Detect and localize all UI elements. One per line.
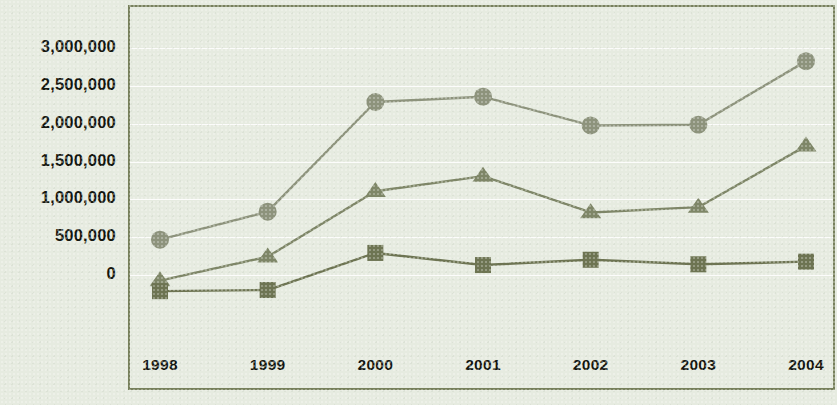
- y-axis-tick-label: 3,000,000: [0, 38, 116, 55]
- y-axis-tick-label: 0: [0, 265, 116, 282]
- data-point-marker: [473, 167, 494, 182]
- chart-figure: 3,000,0002,500,0002,000,0001,500,0001,00…: [0, 0, 837, 405]
- data-point-marker: [797, 52, 815, 70]
- x-axis-tick-label: 2004: [788, 357, 824, 373]
- y-axis-tick-label: 2,000,000: [0, 113, 116, 130]
- data-point-marker: [152, 283, 168, 299]
- x-axis-tick-label: 2003: [680, 357, 716, 373]
- data-point-marker: [690, 256, 706, 272]
- x-axis-tick-label: 1999: [250, 357, 286, 373]
- data-point-marker: [796, 137, 817, 152]
- data-point-marker: [688, 198, 709, 213]
- data-point-marker: [798, 254, 814, 270]
- x-axis-tick-label: 2000: [357, 357, 393, 373]
- data-point-marker: [151, 231, 169, 249]
- data-point-marker: [259, 203, 277, 221]
- data-point-marker: [689, 116, 707, 134]
- y-axis-tick-label: 1,000,000: [0, 189, 116, 206]
- data-point-marker: [474, 88, 492, 106]
- data-point-marker: [366, 93, 384, 111]
- x-axis-tick-label: 2001: [465, 357, 501, 373]
- y-axis: 3,000,0002,500,0002,000,0001,500,0001,00…: [0, 0, 116, 405]
- y-axis-tick-label: 1,500,000: [0, 151, 116, 168]
- y-axis-tick-label: 2,500,000: [0, 76, 116, 93]
- chart-series: [152, 245, 814, 299]
- data-point-marker: [582, 116, 600, 134]
- x-axis-tick-label: 1998: [142, 357, 178, 373]
- chart-series-layer: [128, 5, 835, 390]
- data-point-marker: [583, 252, 599, 268]
- data-point-marker: [257, 247, 278, 262]
- data-point-marker: [367, 245, 383, 261]
- x-axis-tick-label: 2002: [573, 357, 609, 373]
- data-point-marker: [260, 282, 276, 298]
- data-point-marker: [475, 257, 491, 273]
- y-axis-tick-label: 500,000: [0, 227, 116, 244]
- chart-series: [151, 52, 815, 249]
